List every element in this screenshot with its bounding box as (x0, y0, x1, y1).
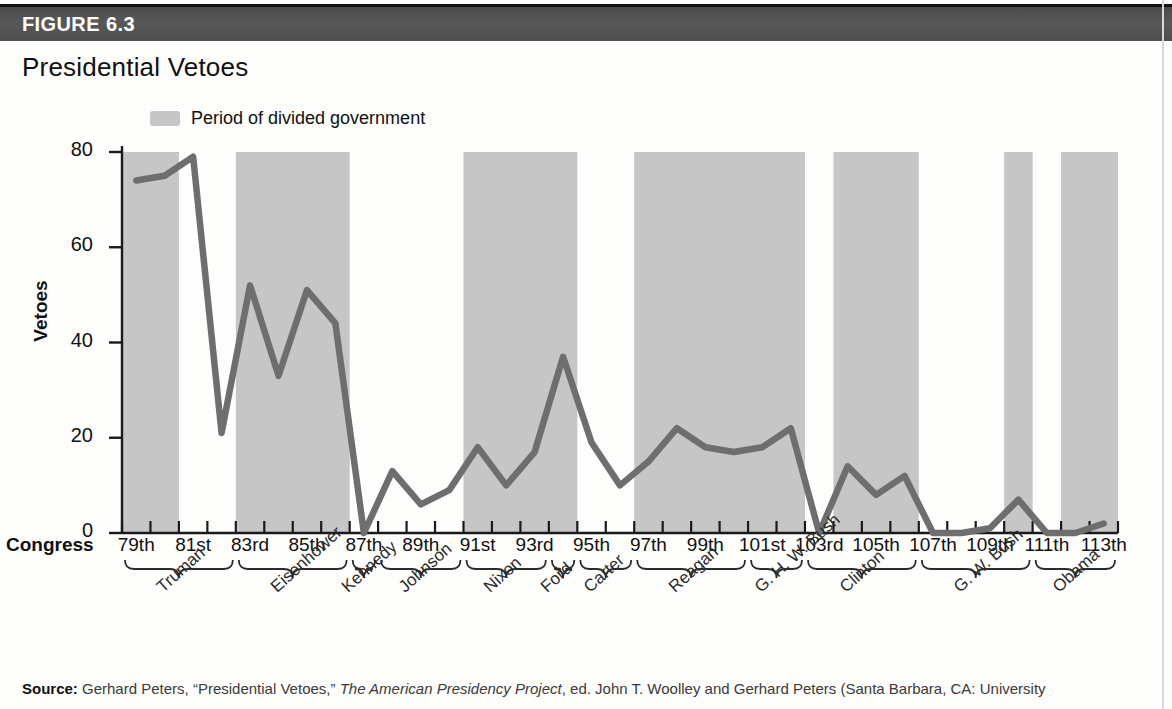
chart-legend: Period of divided government (150, 108, 425, 129)
source-prefix: Source: (22, 680, 78, 697)
y-axis-tick-label: 80 (47, 138, 93, 161)
vetoes-line-chart (0, 0, 1172, 709)
divided-government-swatch (150, 111, 180, 126)
divided-government-band (463, 152, 577, 533)
figure-number: FIGURE 6.3 (22, 13, 135, 36)
divided-government-band (634, 152, 805, 533)
chart-plot-area (0, 0, 1172, 709)
source-note: Source: Gerhard Peters, “Presidential Ve… (22, 680, 1172, 697)
president-label: Carter (580, 550, 628, 596)
page-edge-rule (1162, 0, 1164, 709)
y-axis-tick-label: 40 (47, 329, 93, 352)
source-text-2: , ed. John T. Woolley and Gerhard Peters… (562, 680, 1046, 697)
president-label: Nixon (480, 553, 526, 597)
divided-government-band (1061, 152, 1118, 533)
y-axis-tick-label: 60 (47, 233, 93, 256)
divided-government-band (236, 152, 350, 533)
divided-government-band (122, 152, 179, 533)
divided-government-band (1004, 152, 1032, 533)
vetoes-data-line (136, 157, 1104, 533)
figure-header-bar: FIGURE 6.3 (0, 4, 1172, 41)
y-axis-tick-label: 0 (47, 519, 93, 542)
divided-government-band (833, 152, 918, 533)
source-text-1: Gerhard Peters, “Presidential Vetoes,” (78, 680, 340, 697)
president-label: Ford (537, 559, 576, 597)
legend-label-divided-government: Period of divided government (191, 108, 425, 129)
page-title: Presidential Vetoes (22, 52, 248, 83)
source-title-italic: The American Presidency Project (340, 680, 562, 697)
y-axis-tick-label: 20 (47, 424, 93, 447)
